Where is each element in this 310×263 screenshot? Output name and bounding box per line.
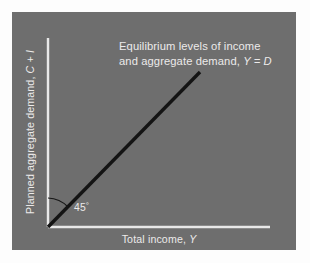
chart-canvas: 45° Equilibrium levels of income and agg… xyxy=(12,12,296,250)
y-axis-label-prefix: Planned aggregate demand, xyxy=(24,73,36,214)
y-axis-label-math: C + I xyxy=(24,50,36,73)
annotation-line-2-prefix: and aggregate demand, xyxy=(119,55,243,67)
x-axis-label: Total income, Y xyxy=(122,233,197,245)
x-axis-label-prefix: Total income, xyxy=(122,233,189,245)
y-axis-label: Planned aggregate demand, C + I xyxy=(24,50,36,214)
chart-panel: 45° Equilibrium levels of income and agg… xyxy=(12,12,296,250)
annotation-line-1: Equilibrium levels of income xyxy=(119,40,260,52)
equilibrium-45-degree-line xyxy=(48,72,200,227)
annotation-line-2: and aggregate demand, Y = D xyxy=(119,55,272,67)
angle-label: 45° xyxy=(74,201,89,213)
angle-arc xyxy=(48,198,68,207)
annotation-line-2-math: Y = D xyxy=(243,55,272,67)
degree-symbol: ° xyxy=(86,201,89,210)
angle-value: 45 xyxy=(74,202,86,213)
figure-root: 45° Equilibrium levels of income and agg… xyxy=(0,0,310,263)
x-axis-label-math: Y xyxy=(189,233,197,245)
